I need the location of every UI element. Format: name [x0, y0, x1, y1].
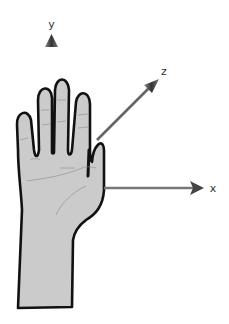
- x-axis-label: x: [210, 182, 217, 195]
- x-axis: x: [104, 181, 217, 195]
- thumb-crease: [88, 150, 89, 176]
- y-axis-arrowhead: [45, 34, 58, 47]
- z-axis: z: [97, 65, 167, 140]
- y-axis-label: y: [48, 18, 55, 31]
- right-hand-rule-diagram: y z x: [0, 0, 229, 324]
- z-axis-label: z: [161, 65, 167, 78]
- hand-silhouette: [17, 80, 104, 309]
- hand: [17, 80, 104, 309]
- z-axis-shaft: [97, 87, 150, 140]
